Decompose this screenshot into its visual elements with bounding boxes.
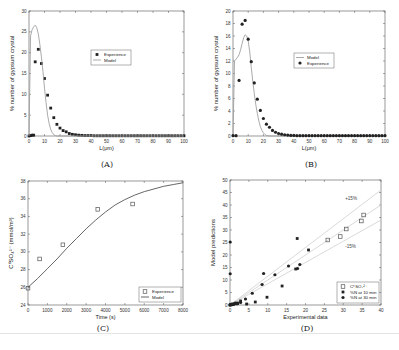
x-tick-label: 20 (57, 139, 63, 144)
legend-entry: C⁰SO₄²⁻ (350, 284, 367, 289)
x-tick-label: 90 (166, 139, 172, 144)
y-tick-label: 38 (20, 179, 26, 184)
x-tick-label: 30 (276, 139, 282, 144)
caption-c: (C) (73, 324, 133, 333)
panel-b: 010203040506070809010002468101214161820L… (200, 0, 399, 158)
x-tick-label: 80 (352, 139, 358, 144)
plot-D: 051015202530354005101520253035404550Expe… (210, 178, 384, 320)
divider (0, 333, 399, 334)
y-tick-label: 14 (225, 46, 231, 51)
legend: C⁰SO₄²⁻%N at 10 min%N at 30 min (337, 282, 379, 303)
y-tick-label: 15 (21, 71, 27, 76)
y-tick-label: 18 (225, 21, 231, 26)
x-tick-label: 10 (265, 308, 271, 313)
x-tick-label: 80 (150, 139, 156, 144)
x-axis-label: L(μm) (302, 145, 317, 151)
y-tick-label: 36 (20, 196, 26, 201)
x-tick-label: 50 (306, 139, 312, 144)
y-axis-label: % number of gypsum crystal (9, 36, 15, 112)
legend-entry: Experience (152, 289, 175, 294)
x-tick-label: 7000 (159, 308, 170, 313)
y-tick-label: 35 (222, 215, 228, 220)
y-tick-label: 32 (20, 232, 26, 237)
x-tick-label: 100 (180, 139, 188, 144)
y-tick-label: 0 (24, 134, 27, 139)
panel-c: 0100020003000400050006000700080002426283… (0, 175, 200, 323)
legend-entry: Model (307, 55, 319, 60)
legend-entry: Experience (104, 52, 127, 57)
y-tick-label: 28 (20, 267, 26, 272)
y-axis-label: % number of gypsum crystal (213, 36, 219, 112)
x-tick-label: 10 (246, 139, 252, 144)
x-tick-label: 90 (367, 139, 373, 144)
x-tick-label: 5000 (120, 308, 131, 313)
x-tick-label: 3000 (81, 308, 92, 313)
y-tick-label: 30 (20, 249, 26, 254)
y-axis-label: C⁰SO₄²⁻ (mmol/m³) (8, 217, 14, 268)
legend-entry: Model (104, 58, 116, 63)
x-tick-label: 35 (360, 308, 366, 313)
panel-d: 051015202530354005101520253035404550Expe… (200, 175, 399, 323)
x-tick-label: 25 (322, 308, 328, 313)
legend-entry: Model (152, 295, 164, 300)
x-axis-label: Time (s) (96, 314, 116, 320)
x-tick-label: 6000 (139, 308, 150, 313)
x-axis-label: Experimental data (283, 314, 328, 320)
y-tick-label: 15 (222, 265, 228, 270)
x-tick-label: 40 (291, 139, 297, 144)
x-tick-label: 20 (303, 308, 309, 313)
legend-entry: %N at 30 min (350, 295, 377, 300)
annotation: +15% (345, 196, 357, 201)
x-tick-label: 70 (337, 139, 343, 144)
chart-d: 051015202530354005101520253035404550Expe… (200, 175, 399, 323)
series-experience (26, 202, 134, 290)
legend: ModelExperience (294, 53, 334, 68)
x-tick-label: 30 (341, 308, 347, 313)
x-tick-label: 100 (381, 139, 389, 144)
y-tick-label: 0 (228, 134, 231, 139)
series-model (233, 35, 385, 136)
y-tick-label: 25 (21, 29, 27, 34)
x-tick-label: 2000 (62, 308, 73, 313)
y-tick-label: 40 (222, 203, 228, 208)
y-tick-label: 20 (225, 9, 231, 14)
x-tick-label: 10 (42, 139, 48, 144)
plot-B: 010203040506070809010002468101214161820L… (213, 9, 389, 151)
y-tick-label: 25 (222, 240, 228, 245)
plot-C: 0100020003000400050006000700080002426283… (8, 179, 189, 320)
x-tick-label: 15 (284, 308, 290, 313)
x-tick-label: 60 (119, 139, 125, 144)
y-tick-label: 34 (20, 214, 26, 219)
x-axis-label: L(μm) (99, 145, 114, 151)
x-tick-label: 60 (322, 139, 328, 144)
y-tick-label: 5 (225, 290, 228, 295)
x-tick-label: 4000 (100, 308, 111, 313)
x-tick-label: 0 (27, 308, 30, 313)
caption-b: (B) (281, 160, 341, 169)
y-tick-label: 30 (21, 9, 27, 14)
y-tick-label: 5 (24, 113, 27, 118)
x-tick-label: 40 (88, 139, 94, 144)
chart-c: 0100020003000400050006000700080002426283… (0, 175, 200, 323)
plot-A: 0102030405060708090100051015202530L(μm)%… (9, 9, 188, 151)
caption-d: (D) (277, 324, 337, 333)
y-tick-label: 24 (20, 303, 26, 308)
legend: ExperienceModel (139, 287, 181, 302)
x-tick-label: 40 (378, 308, 384, 313)
chart-b: 010203040506070809010002468101214161820L… (200, 0, 399, 158)
y-tick-label: 10 (21, 92, 27, 97)
y-tick-label: 50 (222, 178, 228, 183)
x-tick-label: 1000 (42, 308, 53, 313)
x-tick-label: 8000 (178, 308, 189, 313)
panel-a: 0102030405060708090100051015202530L(μm)%… (0, 0, 200, 158)
x-tick-label: 0 (28, 139, 31, 144)
y-tick-label: 45 (222, 190, 228, 195)
legend-entry: Experience (307, 61, 330, 66)
x-tick-label: 50 (104, 139, 110, 144)
x-tick-label: 70 (135, 139, 141, 144)
y-tick-label: 26 (20, 285, 26, 290)
y-tick-label: 8 (228, 84, 231, 89)
x-tick-label: 20 (261, 139, 267, 144)
caption-a: (A) (77, 160, 137, 169)
x-tick-label: 0 (232, 139, 235, 144)
